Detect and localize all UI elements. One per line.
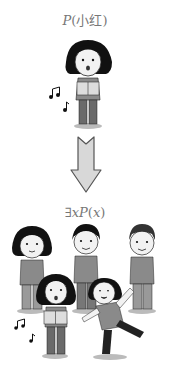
child-boy-right-icon [128, 224, 156, 314]
down-arrow-icon [71, 137, 101, 192]
child-singing-girl-icon [36, 274, 76, 359]
children-group-icon [12, 224, 156, 360]
illustration [0, 0, 170, 371]
music-note-icon [14, 319, 35, 343]
singing-girl-icon [66, 40, 113, 129]
music-note-icon [49, 87, 69, 112]
